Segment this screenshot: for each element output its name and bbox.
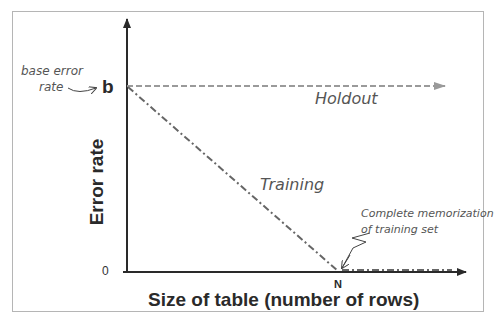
base-error-label-line1: base error [21, 64, 83, 78]
training-label: Training [260, 175, 324, 194]
memorization-label-line1: Complete memorization [361, 207, 494, 220]
chart-canvas [0, 0, 501, 327]
memorization-label-line2: of training set [361, 223, 438, 236]
base-error-label-line2: rate [39, 80, 63, 94]
memorization-arrow [342, 233, 370, 268]
holdout-label: Holdout [315, 89, 378, 108]
x-axis-label: Size of table (number of rows) [148, 289, 419, 311]
y-tick-b: b [102, 76, 114, 98]
y-axis-label: Error rate [86, 139, 108, 226]
y-tick-zero: 0 [102, 264, 109, 278]
base-error-arrow [68, 88, 96, 92]
